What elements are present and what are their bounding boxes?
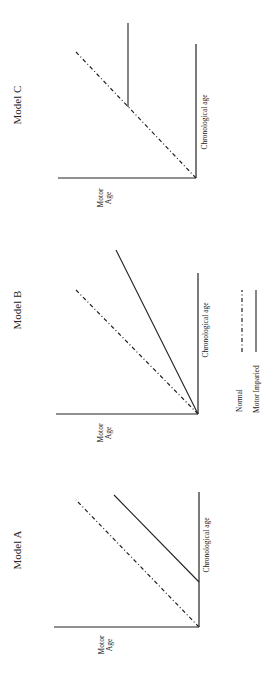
x-axis-label: Chronological age [200, 94, 209, 150]
panel-title-model-c: Model C [11, 86, 23, 125]
motor-impaired-line [116, 250, 198, 414]
normal-line [75, 51, 196, 178]
x-axis-label: Chronological age [201, 302, 210, 358]
legend-motor-impaired-label: Motor Imparied [252, 365, 261, 413]
panel-model-a: Model A Motor Age Chronological age [11, 492, 211, 654]
panel-model-b: Model B Motor Age Chronological age Norm… [11, 250, 261, 442]
panel-model-c: Model C Motor Age Chronological age [11, 23, 209, 207]
normal-line [75, 289, 198, 414]
legend-normal-label: Normal [235, 389, 244, 412]
y-axis-label-age: Age [104, 191, 113, 204]
panel-title-model-a: Model A [11, 531, 23, 570]
y-axis-label-age: Age [105, 638, 114, 651]
y-axis-label-age: Age [104, 426, 113, 439]
panel-title-model-b: Model B [11, 291, 23, 330]
motor-impaired-line [114, 495, 199, 582]
models-diagram: Model C Motor Age Chronological age Mode… [0, 0, 275, 691]
legend: Normal Motor Imparied [235, 290, 261, 413]
x-axis-label: Chronological age [202, 517, 211, 573]
